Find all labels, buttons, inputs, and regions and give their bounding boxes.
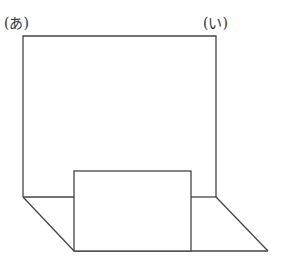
folded-paper-diagram: [0, 0, 283, 265]
front-panel: [74, 171, 191, 251]
floor-left-diagonal: [23, 197, 74, 251]
floor-right-diagonal: [216, 197, 268, 251]
